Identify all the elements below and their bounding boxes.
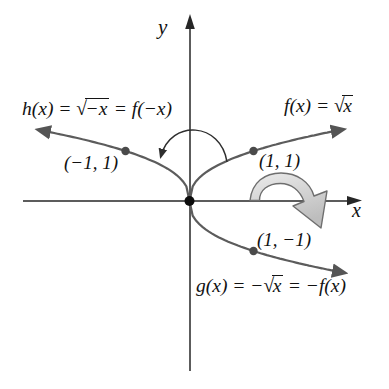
h-label-post: = f(−x) xyxy=(109,98,172,119)
point-label-f: (1, 1) xyxy=(259,151,300,171)
g-label-post: = −f(x) xyxy=(283,275,346,296)
origin-dot xyxy=(185,196,195,206)
h-function-label: h(x) = √−x = f(−x) xyxy=(22,98,172,119)
reflection-arc-arrow-icon xyxy=(161,130,227,162)
function-reflection-figure: y x h(x) = √−x = f(−x) f(x) = √x g(x) = … xyxy=(0,0,389,389)
f-function-label: f(x) = √x xyxy=(284,95,353,116)
g-function-label: g(x) = −√x = −f(x) xyxy=(196,275,346,296)
y-axis-label: y xyxy=(158,16,167,38)
point-label-g: (1, −1) xyxy=(257,230,311,250)
point-label-h: (−1, 1) xyxy=(64,153,118,173)
g-label-pre: g(x) = − xyxy=(196,275,263,296)
point-dot-h xyxy=(121,147,129,155)
radical-icon: √ xyxy=(263,276,273,296)
y-axis-arrowhead-icon xyxy=(185,14,195,29)
point-dot-f xyxy=(249,147,257,155)
radical-icon: √ xyxy=(334,96,344,116)
x-axis-label: x xyxy=(352,200,361,221)
radical-icon: √ xyxy=(76,99,86,119)
diagram-canvas xyxy=(0,0,389,389)
h-label-radicand: −x xyxy=(85,98,109,119)
h-label-pre: h(x) = xyxy=(22,98,76,119)
f-label-pre: f(x) = xyxy=(284,95,334,116)
